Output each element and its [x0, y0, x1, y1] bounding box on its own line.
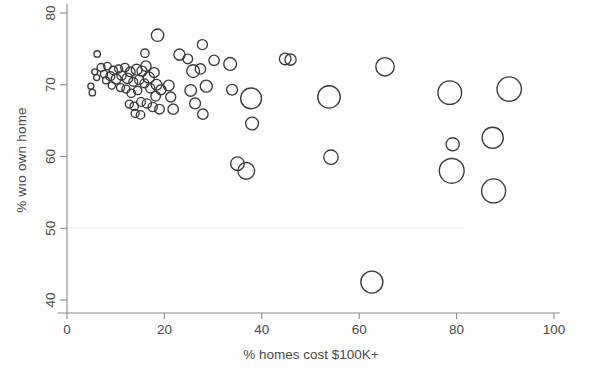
data-point [141, 49, 149, 57]
y-tick-label: 60 [43, 149, 58, 164]
x-tick-label: 80 [449, 322, 464, 337]
data-point [200, 80, 212, 92]
data-point [187, 65, 200, 78]
data-point [190, 98, 201, 109]
data-point [163, 80, 174, 91]
data-point [183, 54, 193, 64]
data-point [137, 98, 146, 107]
x-axis-title: % homes cost $100K+ [243, 347, 379, 362]
data-point [224, 58, 237, 71]
data-point [89, 89, 95, 95]
data-point [497, 77, 521, 101]
data-point [151, 29, 163, 41]
data-point [446, 138, 459, 151]
plot-area: 020406080100 4050607080 % homes cost $10… [0, 0, 590, 372]
data-point [376, 58, 394, 76]
data-point [197, 40, 207, 50]
data-point [195, 64, 205, 74]
data-point [168, 104, 178, 114]
y-axis-title: % wıo own home [14, 107, 29, 213]
bubble-chart: 020406080100 4050607080 % homes cost $10… [0, 0, 590, 372]
x-tick-label: 40 [254, 322, 269, 337]
data-point [185, 85, 197, 97]
data-point [246, 117, 259, 130]
data-point [125, 100, 133, 108]
x-tick-label: 60 [352, 322, 367, 337]
data-point [151, 91, 161, 101]
data-point [166, 92, 176, 102]
data-point [117, 84, 125, 92]
y-tick-labels: 4050607080 [43, 5, 58, 307]
y-tick-label: 40 [43, 292, 58, 307]
axis-lines [58, 4, 560, 319]
data-point [227, 84, 238, 95]
data-point [482, 179, 506, 203]
y-tick-label: 70 [43, 77, 58, 92]
x-tick-label: 20 [157, 322, 172, 337]
data-point [209, 55, 219, 65]
data-point [122, 85, 130, 93]
y-tick-label: 50 [43, 221, 58, 236]
data-point [88, 83, 94, 89]
data-point [318, 86, 340, 108]
y-tick-label: 80 [43, 5, 58, 20]
data-point [438, 81, 462, 105]
data-point [94, 75, 100, 81]
data-point [241, 88, 262, 109]
data-point [324, 150, 338, 164]
data-point [238, 162, 255, 179]
x-tick-label: 0 [63, 322, 71, 337]
data-point [94, 51, 100, 57]
data-point [198, 109, 208, 119]
data-point [136, 111, 144, 119]
data-point [482, 127, 503, 148]
data-point [361, 271, 383, 293]
data-point [439, 158, 464, 183]
x-tick-label: 100 [543, 322, 566, 337]
x-tick-labels: 020406080100 [63, 322, 565, 337]
bubble-series [88, 29, 522, 293]
